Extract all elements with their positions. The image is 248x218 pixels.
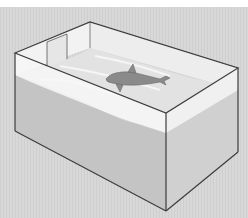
figure: [0, 0, 248, 218]
tank-illustration: [0, 0, 248, 218]
